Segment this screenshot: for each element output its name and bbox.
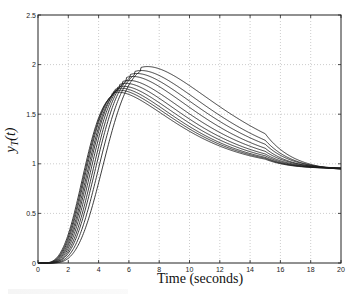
x-tick-label: 20	[337, 266, 345, 273]
x-tick-label: 6	[127, 266, 131, 273]
y-axis-title: yT(t)	[3, 127, 20, 154]
cropped-caption-fragment	[8, 289, 128, 294]
y-tick-label: 1	[32, 160, 36, 167]
response-curve	[38, 76, 341, 263]
x-tick-label: 4	[97, 266, 101, 273]
y-tick-label: 0	[32, 260, 36, 267]
x-tick-label: 18	[307, 266, 315, 273]
y-axis-title-arg: (t)	[3, 127, 19, 141]
y-tick-label: 2.5	[26, 12, 36, 19]
x-tick-label: 16	[277, 266, 285, 273]
y-tick-label: 2	[32, 61, 36, 68]
x-axis-title: Time (seconds)	[157, 271, 244, 287]
x-tick-label: 2	[66, 266, 70, 273]
y-tick-label: 1.5	[26, 111, 36, 118]
x-tick-label: 14	[246, 266, 254, 273]
x-tick-label: 0	[36, 266, 40, 273]
x-axis-ticks: 02468101214161820	[36, 15, 345, 273]
line-chart: 02468101214161820 00.511.522.5 Time (sec…	[0, 0, 353, 294]
y-tick-label: 0.5	[26, 210, 36, 217]
